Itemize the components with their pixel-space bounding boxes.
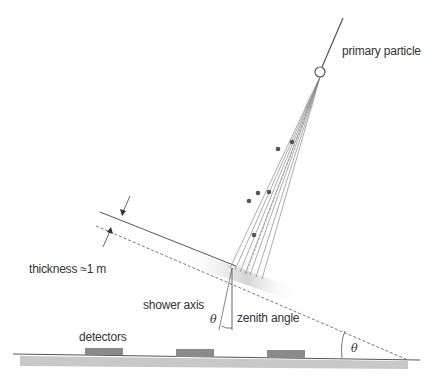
air-shower-diagram: primary particle thickness ≈1 m shower a…	[0, 0, 435, 380]
secondary-particles	[247, 140, 295, 238]
shower-front-lower-dashed	[96, 226, 408, 360]
zenith-theta-symbol: θ	[210, 313, 216, 327]
zenith-angle-label: zenith angle	[237, 311, 299, 325]
detector-1	[85, 348, 123, 355]
thickness-label: thickness ≈1 m	[29, 262, 106, 276]
detector-2	[176, 349, 214, 357]
primary-particle-icon	[315, 67, 325, 77]
ground-angle-arc	[341, 331, 345, 358]
shower-front-shade	[180, 248, 300, 302]
thickness-arrowhead-top	[120, 209, 126, 216]
shower-cone	[230, 77, 320, 279]
detector-3	[267, 350, 305, 358]
thickness-arrowhead-bottom	[107, 227, 113, 234]
shower-front-upper-line	[100, 212, 236, 266]
ground-band	[20, 356, 408, 369]
shower-axis-label: shower axis	[143, 298, 204, 312]
primary-particle-label: primary particle	[342, 44, 421, 58]
zenith-angle-arc	[222, 326, 233, 328]
detectors-label: detectors	[79, 330, 127, 344]
ground-theta-symbol: θ	[351, 342, 357, 356]
primary-particle-track	[322, 18, 343, 67]
thickness-arrow-bottom	[103, 231, 110, 247]
thickness-arrow-top	[123, 196, 130, 212]
